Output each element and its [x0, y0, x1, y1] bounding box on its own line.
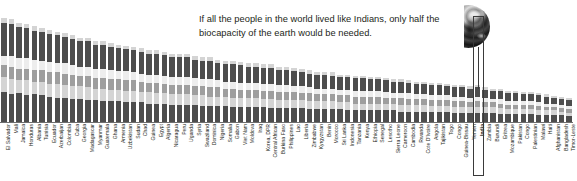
bar-segment-carbon-footprint	[299, 72, 305, 86]
country-label-ghana: Ghana	[113, 124, 118, 139]
bar-segment-built-up-land	[246, 107, 252, 122]
bar-palestinian	[528, 92, 534, 122]
bar-cote-d-ivoire	[421, 82, 427, 122]
country-label-guatemala: Guatemala	[105, 124, 110, 149]
bar-segment-grazing-land	[93, 78, 99, 88]
bar-segment-grazing-land	[299, 93, 305, 100]
bar-lesotho	[383, 78, 389, 122]
country-label-mali: Mali	[14, 124, 19, 133]
bar-segment-built-up-land	[200, 106, 206, 122]
bar-cambodia	[406, 80, 412, 122]
country-label-congo: Congo	[457, 124, 462, 139]
bar-segment-built-up-land	[536, 115, 542, 122]
bar-segment-cropland	[314, 101, 320, 109]
bar-segment-built-up-land	[551, 115, 557, 122]
bar-azerbaijan	[55, 32, 61, 122]
bar-segment-grazing-land	[284, 92, 290, 100]
bar-segment-built-up-land	[528, 114, 534, 122]
bar-segment-built-up-land	[77, 99, 83, 122]
bar-segment-forest-land	[200, 79, 206, 86]
bar-togo	[444, 84, 450, 122]
bar-sierra-leone	[391, 79, 397, 122]
country-label-el-salvador: El Salvador	[6, 124, 11, 150]
country-label-senegal: Senegal	[380, 124, 385, 143]
country-label-jamaica: Jamaica	[21, 124, 26, 143]
country-label-angola: Angola	[434, 124, 439, 140]
bar-segment-grazing-land	[77, 76, 83, 86]
bar-segment-built-up-land	[238, 107, 244, 122]
country-label-sierra-leone: Sierra Leone	[396, 124, 401, 153]
country-label-burkina-faso: Burkina Faso	[281, 124, 286, 154]
bar-segment-built-up-land	[24, 95, 30, 122]
bar-segment-cropland	[62, 85, 68, 98]
bar-cameroon	[398, 79, 404, 122]
country-label-guinea-bissau: Guinea-Bissau	[464, 124, 469, 158]
bar-segment-carbon-footprint	[307, 74, 313, 88]
country-label-morocco: Morocco	[334, 124, 339, 144]
bar-segment-grazing-land	[169, 85, 175, 94]
bar-segment-carbon-footprint	[32, 31, 38, 60]
bar-dominica	[207, 57, 213, 122]
bar-segment-carbon-footprint	[521, 94, 527, 101]
bar-philippines	[284, 67, 290, 122]
bar-segment-grazing-land	[32, 70, 38, 82]
bar-segment-grazing-land	[345, 95, 351, 102]
bar-segment-forest-land	[100, 69, 106, 78]
bar-segment-cropland	[139, 92, 145, 102]
country-label-timor-leste: Timor-Leste	[571, 124, 576, 151]
bar-segment-cropland	[146, 92, 152, 104]
bar-segment-built-up-land	[521, 114, 527, 122]
bar-korea-dpr	[261, 64, 267, 122]
country-label-georgia: Georgia	[82, 124, 87, 142]
bar-algeria	[162, 52, 168, 122]
bar-segment-cropland	[55, 84, 61, 98]
bar-segment-grazing-land	[246, 90, 252, 98]
bar-segment-cropland	[131, 91, 137, 103]
bar-segment-grazing-land	[398, 98, 404, 105]
bar-segment-built-up-land	[429, 112, 435, 122]
country-label-lesotho: Lesotho	[388, 124, 393, 142]
bar-segment-built-up-land	[70, 99, 76, 122]
bar-segment-carbon-footprint	[467, 89, 473, 98]
bar-segment-carbon-footprint	[108, 47, 114, 70]
country-label-guinea: Guinea	[151, 124, 156, 141]
country-label-central-african: Central African	[273, 124, 278, 158]
bar-segment-carbon-footprint	[246, 67, 252, 83]
bar-nigeria	[215, 60, 221, 122]
bar-guinea	[146, 50, 152, 122]
country-label-cote-d-ivoire: Cote D'Ivoire	[426, 124, 431, 153]
country-label-row: El SalvadorMaliJamaicaHondurasAlbaniaTun…	[0, 124, 573, 181]
bar-segment-built-up-land	[230, 107, 236, 122]
bar-segment-grazing-land	[200, 86, 206, 95]
bar-segment-carbon-footprint	[16, 27, 22, 58]
country-label-bangladesh: Bangladesh	[564, 124, 569, 151]
bar-segment-forest-land	[299, 86, 305, 93]
bar-moldova	[246, 63, 252, 122]
bar-morocco	[330, 72, 336, 122]
bar-segment-built-up-land	[345, 110, 351, 122]
bar-segment-grazing-land	[47, 72, 53, 84]
bar-segment-carbon-footprint	[383, 80, 389, 92]
india-leader-line	[478, 47, 479, 89]
bar-segment-built-up-land	[383, 110, 389, 122]
bar-segment-built-up-land	[559, 115, 565, 122]
bar-ghana	[108, 43, 114, 122]
bar-segment-grazing-land	[116, 79, 122, 89]
bar-segment-grazing-land	[223, 89, 229, 97]
bar-segment-forest-land	[246, 83, 252, 90]
bar-segment-cropland	[307, 101, 313, 109]
bar-myanmar	[93, 41, 99, 122]
bar-segment-carbon-footprint	[314, 75, 320, 89]
bar-segment-cropland	[223, 97, 229, 106]
bar-segment-forest-land	[77, 67, 83, 76]
country-label-korea-dpr: Korea, DPR	[266, 124, 271, 151]
bar-segment-cropland	[383, 104, 389, 111]
bar-segment-cropland	[215, 97, 221, 106]
bar-peru	[177, 54, 183, 122]
country-label-eritrea: Eritrea	[503, 124, 508, 139]
bar-segment-built-up-land	[467, 113, 473, 122]
bar-segment-cropland	[284, 100, 290, 108]
bar-ethiopia	[368, 77, 374, 122]
bar-zambia	[482, 87, 488, 122]
